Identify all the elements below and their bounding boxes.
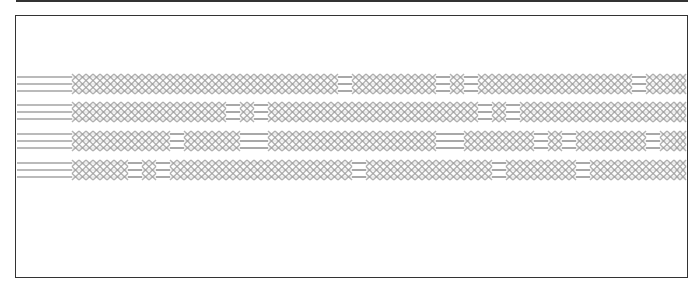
waveform-canvas: [0, 0, 697, 290]
